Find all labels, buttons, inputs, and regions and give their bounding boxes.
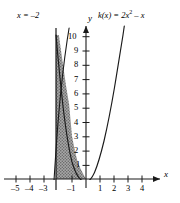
y-tick-label-6: 6 xyxy=(74,89,78,98)
y-tick-label-3: 3 xyxy=(74,132,78,141)
y-tick-label-5: 5 xyxy=(74,103,78,112)
x-axis-label: x xyxy=(164,170,168,179)
function-label-suffix: – x xyxy=(132,10,144,20)
y-axis xyxy=(83,26,89,188)
y-tick-label-4: 4 xyxy=(74,118,78,127)
y-tick-label-8: 8 xyxy=(74,60,78,69)
y-tick-label-10: 10 xyxy=(68,32,77,41)
x-tick-label--3: –3 xyxy=(39,184,48,193)
graph-figure: –5 –4 –3 –1 1 2 3 4 10 9 8 7 6 5 4 3 2 1… xyxy=(0,0,180,203)
y-tick-label-9: 9 xyxy=(74,46,78,55)
y-tick-label-7: 7 xyxy=(74,75,78,84)
vertical-line-label: x = –2 xyxy=(17,10,39,20)
x-tick-label--1: –1 xyxy=(67,184,76,193)
y-axis-label: y xyxy=(88,14,92,23)
x-tick-label-1: 1 xyxy=(98,184,102,193)
x-tick-label-3: 3 xyxy=(126,184,130,193)
function-label: k(x) = 2x2 – x xyxy=(98,11,145,20)
function-label-prefix: k(x) = 2x xyxy=(98,10,129,20)
graph-canvas xyxy=(0,0,180,203)
x-tick-label-4: 4 xyxy=(140,184,144,193)
x-tick-label-2: 2 xyxy=(112,184,116,193)
x-tick-label--4: –4 xyxy=(25,184,34,193)
y-tick-label-2: 2 xyxy=(74,146,78,155)
y-tick-label-1: 1 xyxy=(76,160,80,169)
x-tick-label--5: –5 xyxy=(11,184,20,193)
